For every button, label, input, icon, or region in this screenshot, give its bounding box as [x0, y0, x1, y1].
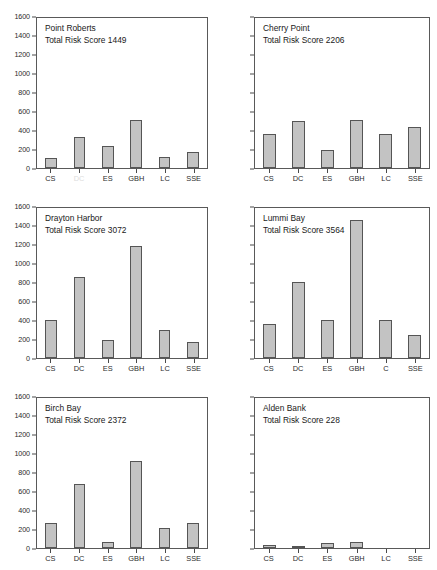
bar [130, 246, 142, 358]
bar [321, 543, 333, 548]
y-axis-tick-label: 800 [18, 469, 30, 476]
plot-area: 02004006008001000120014001600Birch BayTo… [0, 380, 218, 570]
x-axis: CSDCESGBHLCSSE [254, 549, 430, 569]
bar [321, 320, 333, 358]
x-axis-tick-label: DC [74, 555, 85, 562]
bar [292, 546, 304, 549]
x-axis-tick-label: LC [160, 365, 169, 372]
x-axis-tick-label: C [383, 365, 388, 372]
x-axis: CSDCESGBHLCSSE [36, 359, 208, 379]
x-axis-tick-label: SSE [186, 175, 201, 182]
x-axis-tick-mark [298, 359, 299, 363]
x-axis-tick-mark [357, 549, 358, 553]
x-axis-tick-label: GBH [349, 365, 365, 372]
y-axis: 02004006008001000120014001600 [0, 207, 30, 359]
y-axis-tick-label: 800 [18, 279, 30, 286]
x-axis-tick-mark [136, 549, 137, 553]
x-axis-tick-label: ES [103, 365, 113, 372]
y-axis-tick-label: 1000 [14, 450, 30, 457]
y-axis [218, 207, 248, 359]
x-axis-tick-mark [327, 359, 328, 363]
x-axis-tick-label: GBH [349, 175, 365, 182]
plot-box: Drayton HarborTotal Risk Score 3072 [36, 207, 208, 359]
bar-series [255, 18, 429, 168]
y-axis-tick-label: 1000 [14, 70, 30, 77]
x-axis-tick-label: CS [45, 365, 55, 372]
y-axis-tick-label: 1200 [14, 241, 30, 248]
x-axis-tick-mark [415, 359, 416, 363]
x-axis-tick-mark [298, 169, 299, 173]
bar [263, 545, 275, 548]
x-axis-tick-label: ES [103, 555, 113, 562]
x-axis: CSDCESGBHLCSSE [36, 549, 208, 569]
y-axis-tick-label: 1600 [14, 13, 30, 20]
bar [74, 277, 86, 358]
bar-series [255, 208, 429, 358]
x-axis-tick-label: LC [381, 555, 390, 562]
bar [159, 528, 171, 548]
x-axis: CSDCESGBHCSSE [254, 359, 430, 379]
plot-area: 02004006008001000120014001600Point Rober… [0, 0, 218, 190]
y-axis-tick-label: 0 [26, 355, 30, 362]
x-axis-tick-mark [415, 549, 416, 553]
risk-score-figure: 02004006008001000120014001600Point Rober… [0, 0, 437, 570]
x-axis-tick-label: GBH [349, 555, 365, 562]
x-axis-tick-mark [79, 169, 80, 173]
y-axis [218, 397, 248, 549]
x-axis-tick-mark [79, 359, 80, 363]
y-axis-tick-label: 400 [18, 127, 30, 134]
x-axis-tick-mark [50, 549, 51, 553]
bar [187, 152, 199, 168]
plot-area: 02004006008001000120014001600Drayton Har… [0, 190, 218, 380]
bar [350, 542, 362, 548]
x-axis-tick-mark [269, 359, 270, 363]
chart-panel: 02004006008001000120014001600Drayton Har… [0, 190, 218, 380]
x-axis-tick-label: DC [293, 555, 304, 562]
x-axis: CSDCESGBHLCSSE [36, 169, 208, 189]
x-axis-tick-label: CS [264, 365, 274, 372]
y-axis-tick-label: 1600 [14, 203, 30, 210]
x-axis-tick-mark [108, 359, 109, 363]
x-axis-tick-mark [327, 549, 328, 553]
y-axis-tick-label: 200 [18, 526, 30, 533]
chart-panel: 02004006008001000120014001600Birch BayTo… [0, 380, 218, 570]
x-axis-tick-label: LC [160, 175, 169, 182]
x-axis-tick-mark [327, 169, 328, 173]
y-axis-tick-label: 1200 [14, 431, 30, 438]
bar [408, 335, 420, 358]
bar [45, 523, 57, 548]
x-axis-tick-label: DC [74, 365, 85, 372]
x-axis-tick-label: CS [264, 555, 274, 562]
x-axis-tick-mark [108, 169, 109, 173]
x-axis-tick-label: LC [160, 555, 169, 562]
bar-series [37, 208, 207, 358]
bar [263, 134, 275, 168]
x-axis-tick-label: DC [74, 175, 85, 182]
chart-panel: Lummi BayTotal Risk Score 3564CSDCESGBHC… [218, 190, 437, 380]
x-axis-tick-mark [108, 549, 109, 553]
plot-area: Alden BankTotal Risk Score 228CSDCESGBHL… [218, 380, 437, 570]
y-axis-tick-label: 1400 [14, 412, 30, 419]
x-axis-tick-label: ES [322, 555, 332, 562]
x-axis-tick-mark [357, 359, 358, 363]
x-axis-tick-label: SSE [408, 175, 423, 182]
plot-box: Birch BayTotal Risk Score 2372 [36, 397, 208, 549]
chart-panel: 02004006008001000120014001600Point Rober… [0, 0, 218, 190]
plot-box: Point RobertsTotal Risk Score 1449 [36, 17, 208, 169]
bar [350, 120, 362, 168]
x-axis-tick-mark [50, 359, 51, 363]
x-axis-tick-label: GBH [128, 555, 144, 562]
x-axis-tick-label: CS [45, 555, 55, 562]
y-axis: 02004006008001000120014001600 [0, 17, 30, 169]
bar [263, 324, 275, 358]
x-axis-tick-mark [415, 169, 416, 173]
bar [45, 158, 57, 168]
y-axis-tick-label: 1600 [14, 393, 30, 400]
bar [292, 121, 304, 168]
y-axis-tick-label: 1000 [14, 260, 30, 267]
x-axis-tick-label: ES [103, 175, 113, 182]
x-axis-tick-label: ES [322, 175, 332, 182]
bar [159, 330, 171, 359]
x-axis-tick-mark [136, 359, 137, 363]
x-axis-tick-mark [165, 359, 166, 363]
